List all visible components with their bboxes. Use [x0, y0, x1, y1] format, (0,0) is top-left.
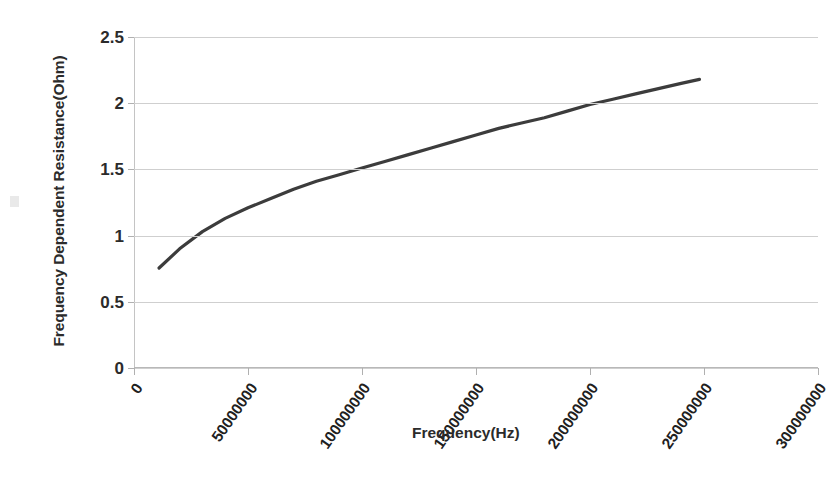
x-tick-label: 250000000: [658, 380, 716, 452]
x-tick-label: 300000000: [772, 380, 830, 452]
chart-figure: Frequency Dependent Resistance(Ohm) 00.5…: [0, 0, 839, 499]
x-axis-title: Frequency(Hz): [412, 424, 520, 442]
x-tick-label: 200000000: [544, 380, 602, 452]
x-tick-label: 0: [127, 380, 147, 397]
x-tick-label: 100000000: [316, 380, 374, 452]
x-tick-label: 50000000: [208, 380, 261, 446]
